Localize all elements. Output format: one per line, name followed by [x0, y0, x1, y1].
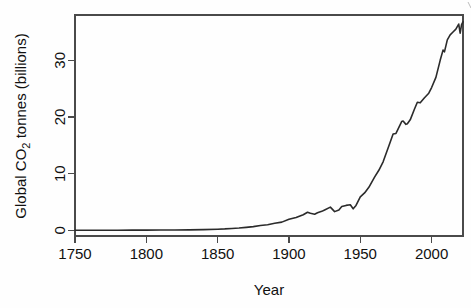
y-axis-tick-labels: 0102030	[51, 52, 68, 235]
data-series-line	[75, 22, 463, 230]
co2-line-chart: 0102030 175018001850190019502000 Global …	[0, 0, 471, 308]
y-axis-tick-label: 10	[51, 165, 68, 182]
figure-container: 0102030 175018001850190019502000 Global …	[0, 0, 471, 308]
x-axis-tick-label: 1950	[344, 245, 377, 262]
x-axis-tick-label: 1850	[201, 245, 234, 262]
y-axis-tick-label: 20	[51, 109, 68, 126]
x-axis-tick-labels: 175018001850190019502000	[58, 245, 448, 262]
x-axis-tick-label: 1900	[272, 245, 305, 262]
y-axis-ticks	[68, 60, 75, 230]
y-axis-title-prefix: Global CO	[12, 149, 29, 219]
y-axis-tick-label: 0	[51, 226, 68, 234]
y-axis-title: Global CO2 tonnes (billions)	[12, 33, 32, 218]
y-axis-tick-label: 30	[51, 52, 68, 69]
x-axis-tick-label: 1800	[130, 245, 163, 262]
x-axis-tick-label: 1750	[58, 245, 91, 262]
y-axis-title-suffix: tonnes (billions)	[12, 33, 29, 142]
plot-frame	[75, 15, 463, 236]
x-axis-tick-label: 2000	[415, 245, 448, 262]
x-axis-ticks	[75, 236, 432, 243]
x-axis-title: Year	[254, 281, 284, 298]
